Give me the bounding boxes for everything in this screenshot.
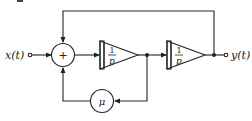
- integrator1-numerator: 1: [109, 46, 114, 55]
- summing-junction: +: [52, 44, 75, 67]
- gain-block-mu: μ: [91, 90, 114, 113]
- input-label: x(t): [5, 49, 24, 62]
- top-feedback-path: [63, 11, 214, 55]
- integrator-block-1: 1 p: [100, 41, 138, 69]
- gain-symbol: μ: [99, 96, 106, 107]
- output-label: y(t): [230, 49, 250, 62]
- bottom-feedback-path: [63, 68, 90, 101]
- input-terminal: [28, 53, 32, 57]
- integrator2-numerator: 1: [176, 46, 181, 55]
- integrator2-denominator: p: [176, 56, 182, 66]
- output-terminal: [224, 53, 228, 57]
- integrator1-denominator: p: [109, 56, 115, 66]
- summer-symbol: +: [58, 49, 67, 62]
- block-diagram: x(t) + 1 p 1 p y(t) μ: [0, 0, 252, 121]
- integrator-block-2: 1 p: [167, 41, 205, 69]
- cropped-heading-fragment: [17, 0, 23, 2]
